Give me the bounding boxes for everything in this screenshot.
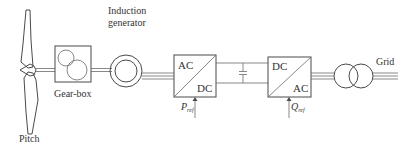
rectifier-dc-label: DC xyxy=(197,82,212,94)
low-speed-shaft xyxy=(36,69,55,72)
three-phase-line-generator xyxy=(142,73,174,79)
gearbox-label: Gear-box xyxy=(54,88,92,99)
three-phase-line-inverter xyxy=(311,73,334,79)
q-ref-label: Qref xyxy=(291,101,306,113)
generator-label-line1: Induction xyxy=(108,5,146,16)
rotor-blades-icon xyxy=(20,10,38,134)
pitch-label: Pitch xyxy=(19,133,40,144)
rectifier-ac-label: AC xyxy=(178,59,193,71)
p-ref-label: Pref xyxy=(180,101,195,113)
induction-generator-icon xyxy=(110,55,142,87)
dc-link xyxy=(216,63,268,83)
grid-label: Grid xyxy=(376,56,394,67)
inverter-ac-label: AC xyxy=(293,82,308,94)
high-speed-shaft xyxy=(91,69,112,72)
transformer-icon xyxy=(334,64,373,88)
gearbox-icon xyxy=(55,46,91,82)
generator-label-line2: generator xyxy=(108,17,146,28)
wind-turbine-diagram: Pitch Gear-box Induction generator AC DC xyxy=(0,0,414,149)
three-phase-line-grid xyxy=(373,73,398,79)
inverter-dc-label: DC xyxy=(272,60,287,72)
